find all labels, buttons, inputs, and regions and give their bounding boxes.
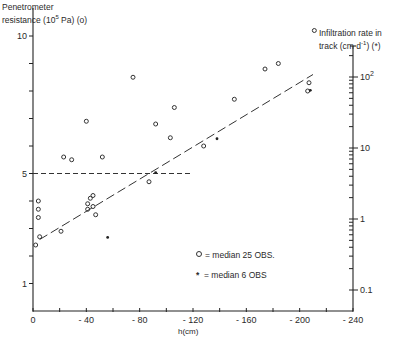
legend-circle-label: = median 25 OBS. (205, 250, 275, 260)
x-tick-label: - 120 (183, 315, 204, 325)
circle-point (263, 67, 267, 71)
right-tick-label: 1 (360, 214, 365, 224)
circle-point (202, 144, 206, 148)
circle-point (307, 81, 311, 85)
circle-point (70, 158, 74, 162)
legend-star-label: = median 6 OBS (204, 270, 267, 280)
circle-point (84, 119, 88, 123)
legend-circle-entry: = median 25 OBS. (196, 250, 275, 260)
right-axis-title: Infiltration rate in track (cm d-1) (*) (319, 28, 382, 51)
circle-point (91, 194, 95, 198)
asterisk-point (154, 171, 157, 174)
axes (33, 8, 356, 311)
circle-point (147, 180, 151, 184)
circle-marker-icon (196, 251, 202, 257)
circle-point (34, 243, 38, 247)
left-axis-title-line1: Penetrometer (2, 2, 87, 12)
circle-point (36, 207, 40, 211)
right-tick-label: 10 (360, 143, 370, 153)
x-tick-label: - 200 (289, 315, 310, 325)
asterisk-marker-icon: * (196, 270, 202, 280)
circle-point (91, 205, 95, 209)
x-tick-label: - 80 (132, 315, 148, 325)
left-tick-label: 10 (17, 31, 27, 41)
x-tick-label: - 40 (79, 315, 95, 325)
x-tick-label: 0 (30, 315, 35, 325)
asterisk-point (106, 236, 109, 239)
right-tick-label: 0.1 (360, 285, 373, 295)
circle-point (306, 89, 310, 93)
circle-point (172, 106, 176, 110)
circle-point (38, 235, 42, 239)
series-circle-points (34, 29, 317, 248)
asterisk-point (216, 137, 219, 140)
circle-point (100, 155, 104, 159)
right-axis-title-line2: track (cm d-1) (*) (319, 38, 382, 51)
circle-point (59, 229, 63, 233)
circle-point (86, 202, 90, 206)
circle-point (94, 213, 98, 217)
fit-lines (33, 75, 313, 240)
tick-labels: 0- 40- 80- 120- 160- 200- 24015100.11101… (17, 31, 374, 325)
circle-point (36, 199, 40, 203)
circle-point (168, 136, 172, 140)
asterisk-point (309, 89, 312, 92)
left-axis-title: Penetrometer resistance (105 Pa) (o) (2, 2, 87, 25)
circle-point (131, 75, 135, 79)
right-axis-title-line1: Infiltration rate in (319, 28, 382, 38)
chart-canvas: 0- 40- 80- 120- 160- 200- 24015100.11101… (0, 0, 408, 344)
x-axis-title: h(cm) (178, 327, 198, 337)
circle-point (232, 97, 236, 101)
right-tick-label: 102 (360, 70, 374, 82)
x-tick-label: - 160 (236, 315, 257, 325)
legend-star-entry: *= median 6 OBS (196, 270, 267, 280)
circle-point (312, 29, 316, 33)
left-tick-label: 1 (22, 279, 27, 289)
left-axis-title-line2: resistance (105 Pa) (o) (2, 12, 87, 25)
circle-point (36, 216, 40, 220)
x-tick-label: - 240 (343, 315, 364, 325)
left-tick-label: 5 (22, 169, 27, 179)
circle-point (62, 155, 66, 159)
series-asterisk-points (106, 89, 311, 239)
circle-point (154, 122, 158, 126)
regression-line (40, 75, 313, 240)
circle-point (276, 62, 280, 66)
